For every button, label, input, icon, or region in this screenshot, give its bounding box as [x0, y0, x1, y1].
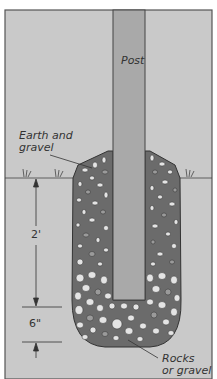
earth-gravel-label-line2: gravel — [19, 142, 73, 154]
rocks-gravel-label-line2: or gravel — [162, 365, 211, 377]
lower-depth-label: 6" — [29, 317, 41, 330]
rocks-gravel-label: Rocks or gravel — [162, 353, 211, 377]
post-label: Post — [121, 55, 144, 67]
earth-gravel-label: Earth and gravel — [19, 130, 73, 154]
upper-depth-label: 2' — [31, 228, 41, 241]
